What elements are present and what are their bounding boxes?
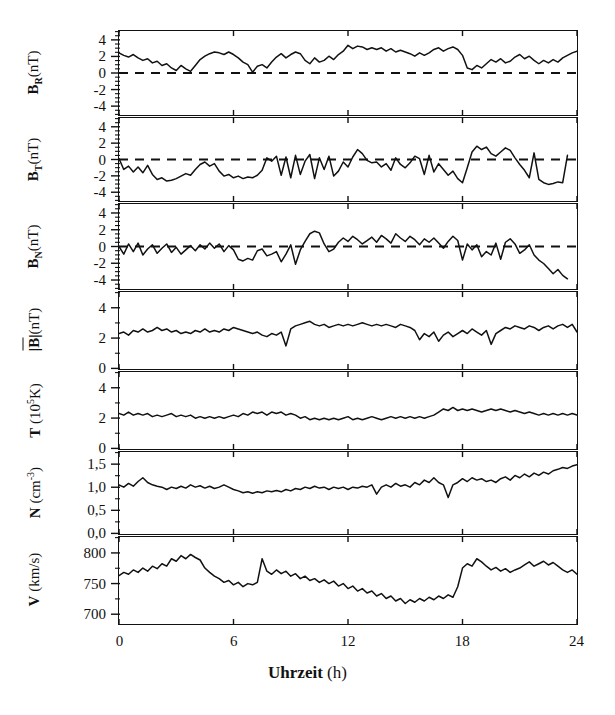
data-trace-BR — [119, 45, 577, 72]
xtick-label: 12 — [341, 634, 356, 649]
xaxis-title: Uhrzeit (h) — [0, 663, 615, 683]
ytick-label-BT: 2 — [60, 136, 106, 151]
plot-area-T — [119, 372, 577, 449]
ytick-label-Bmag: 0 — [60, 361, 106, 376]
xtick-label: 24 — [569, 634, 584, 649]
ytick-label-N: 0,0 — [60, 526, 106, 541]
ytick-label-BR: 0 — [60, 66, 106, 81]
ytick-label-BT: 4 — [60, 119, 106, 134]
ytick-label-T: 0 — [60, 441, 106, 456]
xaxis-title-unit: (h) — [327, 663, 347, 682]
ytick-label-BT: -2 — [60, 168, 106, 183]
ylabel-br: BR(nT) — [25, 27, 44, 119]
data-trace-BT — [119, 146, 567, 184]
data-trace-BN — [119, 231, 567, 279]
panel-velocity — [118, 536, 578, 625]
ytick-label-BR: -4 — [60, 99, 106, 114]
ylabel-bn: BN(nT) — [25, 200, 44, 292]
plot-area-Bmag — [119, 292, 577, 369]
ylabel-temperature: T (105K) — [25, 364, 44, 456]
panel-temperature — [118, 371, 578, 450]
data-trace-T — [119, 407, 577, 419]
ytick-label-N: 1,5 — [60, 457, 106, 472]
plot-area-BT — [119, 118, 577, 201]
xaxis-title-main: Uhrzeit — [268, 663, 323, 682]
ytick-label-BR: -2 — [60, 82, 106, 97]
ylabel-density: N (cm-3) — [25, 447, 44, 539]
ylabel-velocity: V (km/s) — [26, 533, 43, 625]
xtick-label: 18 — [455, 634, 470, 649]
ytick-label-BN: 2 — [60, 222, 106, 237]
ytick-label-BN: -4 — [60, 273, 106, 288]
ylabel-bt: BT(nT) — [25, 113, 44, 205]
plot-area-V — [119, 537, 577, 624]
yaxis-ticks-T — [108, 371, 120, 450]
panel-bn — [118, 203, 578, 290]
ytick-label-BN: 0 — [60, 239, 106, 254]
solar-wind-timeseries-figure: BR(nT) BT(nT) BN(nT) |B|(nT) T (105K) N … — [0, 0, 615, 715]
ytick-label-T: 4 — [60, 380, 106, 395]
xtick-label: 6 — [230, 634, 238, 649]
ytick-label-BN: 4 — [60, 205, 106, 220]
plot-area-N — [119, 452, 577, 534]
ylabel-bmag: |B|(nT) — [26, 283, 43, 375]
ytick-label-N: 0,5 — [60, 503, 106, 518]
ytick-label-V: 750 — [60, 576, 106, 591]
ytick-label-T: 2 — [60, 411, 106, 426]
ytick-label-BT: -4 — [60, 185, 106, 200]
yaxis-ticks-BR — [108, 30, 120, 116]
panel-bt — [118, 117, 578, 202]
panel-density — [118, 451, 578, 535]
yaxis-ticks-Bmag — [108, 291, 120, 370]
plot-area-BR — [119, 31, 577, 115]
yaxis-ticks-N — [108, 451, 120, 535]
yaxis-ticks-BN — [108, 203, 120, 290]
ytick-label-V: 800 — [60, 545, 106, 560]
ytick-label-BR: 4 — [60, 32, 106, 47]
ytick-label-BR: 2 — [60, 49, 106, 64]
ytick-label-BN: -2 — [60, 256, 106, 271]
yaxis-ticks-BT — [108, 117, 120, 202]
ytick-label-Bmag: 4 — [60, 300, 106, 315]
ytick-label-BT: 0 — [60, 152, 106, 167]
ytick-label-N: 1,0 — [60, 480, 106, 495]
plot-area-BN — [119, 204, 577, 289]
ytick-label-V: 700 — [60, 607, 106, 622]
yaxis-ticks-V — [108, 536, 120, 625]
panel-br — [118, 30, 578, 116]
data-trace-V — [119, 554, 577, 603]
data-trace-N — [119, 465, 577, 498]
data-trace-Bmag — [119, 321, 577, 346]
panel-bmag — [118, 291, 578, 370]
ytick-label-Bmag: 2 — [60, 331, 106, 346]
xtick-label: 0 — [116, 634, 124, 649]
